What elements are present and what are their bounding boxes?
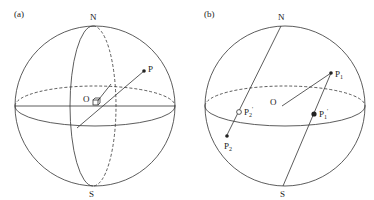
panel-b-tag: (b) bbox=[204, 9, 215, 19]
p1-label: P1 bbox=[335, 69, 343, 80]
sphere-outline-b bbox=[205, 26, 365, 186]
point-p2-prime bbox=[237, 110, 242, 115]
north-label-a: N bbox=[90, 12, 97, 22]
south-label-b: S bbox=[280, 189, 285, 199]
equator-back-b bbox=[205, 86, 365, 106]
panel-a bbox=[15, 26, 175, 186]
point-p1-prime bbox=[311, 111, 316, 116]
p2-prime-label: P2' bbox=[244, 106, 253, 118]
line-n-p2 bbox=[226, 26, 281, 137]
equator-front-a bbox=[15, 106, 175, 126]
stereographic-sphere-figure: (a) N S O P (b) N S O P1 P1' P2' P2 bbox=[0, 0, 374, 200]
panel-b bbox=[205, 26, 365, 186]
point-p2 bbox=[225, 134, 229, 138]
point-p-a bbox=[142, 69, 146, 73]
line-p1-s bbox=[283, 73, 331, 186]
origin-cube-a bbox=[93, 100, 98, 105]
south-label-a: S bbox=[89, 189, 94, 199]
point-p1 bbox=[329, 71, 333, 75]
p1-prime-label: P1' bbox=[319, 108, 328, 120]
equator-front-b bbox=[205, 106, 365, 126]
panel-a-tag: (a) bbox=[14, 9, 24, 19]
north-label-b: N bbox=[278, 12, 285, 22]
origin-label-b: O bbox=[270, 97, 277, 107]
p2-label: P2 bbox=[224, 141, 232, 152]
point-p-label-a: P bbox=[148, 64, 153, 74]
origin-label-a: O bbox=[83, 94, 90, 104]
